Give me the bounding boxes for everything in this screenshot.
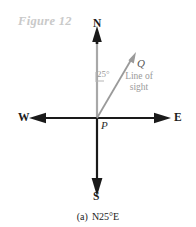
- line-of-sight-text-2: sight: [115, 82, 163, 93]
- compass-label-east: E: [174, 111, 182, 123]
- figure-container: Figure 12 N S W E P Q 25° Line of sight …: [0, 0, 196, 227]
- compass-label-north: N: [93, 17, 101, 29]
- compass-label-south: S: [93, 190, 99, 202]
- west-arrowhead-icon: [29, 113, 46, 123]
- point-label-p: P: [101, 119, 108, 131]
- line-of-sight-annotation: Line of sight: [115, 71, 163, 93]
- caption-bearing: N25°E: [92, 211, 119, 222]
- line-of-sight-text-1: Line of: [125, 71, 153, 81]
- figure-caption: (a)N25°E: [0, 211, 196, 222]
- point-label-q: Q: [137, 57, 145, 69]
- angle-measure-label: 25°: [97, 69, 110, 79]
- caption-marker: (a): [77, 211, 88, 222]
- east-arrowhead-icon: [154, 113, 171, 123]
- compass-label-west: W: [18, 111, 30, 123]
